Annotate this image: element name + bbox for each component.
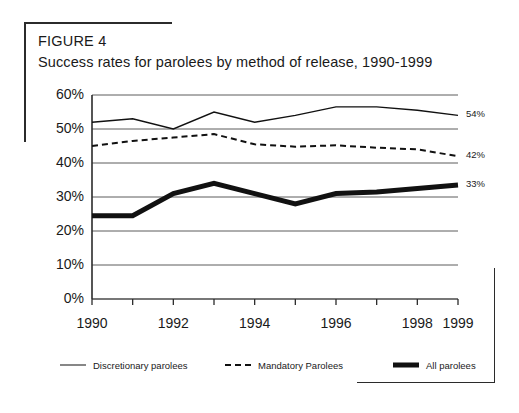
figure-page: FIGURE 4 Success rates for parolees by m… (0, 0, 519, 413)
thick-line-swatch (393, 359, 419, 371)
legend-label: All parolees (426, 360, 476, 371)
y-tick-label: 10% (28, 256, 84, 272)
x-tick-label: 1992 (143, 315, 203, 331)
series-end-label: 33% (466, 178, 485, 189)
y-tick-label: 20% (28, 222, 84, 238)
x-tick-label: 1994 (225, 315, 285, 331)
chart-line-mandatory-parolees (92, 134, 458, 156)
legend-item-discretionary-parolees: Discretionary parolees (60, 355, 188, 375)
legend-item-mandatory-parolees: Mandatory Parolees (225, 355, 343, 375)
y-tick-label: 60% (28, 86, 84, 102)
x-tick-label: 1996 (306, 315, 366, 331)
legend-label: Mandatory Parolees (258, 360, 343, 371)
y-tick-label: 30% (28, 188, 84, 204)
series-end-label: 42% (466, 149, 485, 160)
chart-svg (0, 0, 519, 413)
y-tick-label: 0% (28, 290, 84, 306)
series-end-label: 54% (466, 108, 485, 119)
chart-line-discretionary-parolees (92, 107, 458, 129)
x-tick-label: 1999 (428, 315, 488, 331)
y-tick-label: 50% (28, 120, 84, 136)
legend-item-all-parolees: All parolees (393, 355, 476, 375)
thin-line-swatch (60, 359, 86, 371)
chart-x-tick-marks (92, 299, 458, 305)
chart-legend: Discretionary parolees Mandatory Parolee… (60, 355, 460, 375)
dashed-line-swatch (225, 359, 251, 371)
chart-series-layer (92, 107, 458, 216)
x-tick-label: 1990 (62, 315, 122, 331)
chart-line-all-parolees (92, 183, 458, 215)
legend-label: Discretionary parolees (93, 360, 188, 371)
chart-plot-area: 0%10%20%30%40%50%60% 1990199219941996199… (0, 0, 519, 413)
y-tick-label: 40% (28, 154, 84, 170)
